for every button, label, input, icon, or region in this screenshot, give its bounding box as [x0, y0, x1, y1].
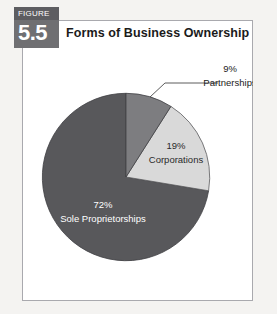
partnerships-value-label: 9% — [223, 63, 237, 74]
figure-number-badge: FIGURE 5.5 — [14, 7, 59, 48]
sole-proprietorships-value-label: 72% — [93, 199, 113, 210]
corporations-value-label: 19% — [166, 140, 186, 151]
partnerships-name-label: Partnerships — [203, 77, 253, 88]
pie-chart-svg: 9% Partnerships 19% Corporations 72% Sol… — [22, 50, 253, 301]
corporations-name-label: Corporations — [149, 154, 204, 165]
pie-chart: 9% Partnerships 19% Corporations 72% Sol… — [22, 50, 253, 301]
sole-proprietorships-name-label: Sole Proprietorships — [60, 213, 146, 224]
figure-container: FIGURE 5.5 Forms of Business Ownership 9… — [0, 0, 277, 314]
figure-badge-kicker: FIGURE — [14, 7, 59, 20]
figure-badge-number: 5.5 — [14, 20, 59, 46]
page-title: Forms of Business Ownership — [66, 26, 249, 40]
